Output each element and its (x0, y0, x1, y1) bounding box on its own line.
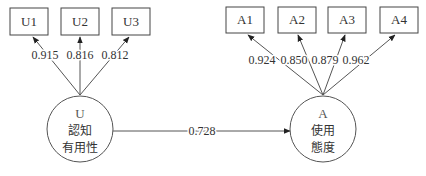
indicator-label: A3 (339, 12, 355, 27)
indicator-a1: A1 (226, 7, 264, 33)
latent-name-line1: 認知 (68, 123, 92, 138)
loading-a1: 0.924 (249, 53, 276, 67)
indicator-label: U3 (123, 14, 139, 29)
indicator-a3: A3 (328, 7, 366, 33)
indicator-label: U1 (21, 14, 37, 29)
loading-u3: 0.812 (102, 48, 129, 62)
loading-a2: 0.850 (281, 53, 308, 67)
latent-code: U (75, 106, 85, 121)
path-coefficient: 0.728 (189, 124, 216, 138)
indicator-label: U2 (72, 14, 88, 29)
u-loading-edges (33, 37, 129, 95)
indicator-u2: U2 (61, 8, 99, 35)
sem-diagram: 0.728 U1 U2 U3 A1 A2 A3 A4 0.915 0.816 0… (0, 0, 426, 176)
latent-construct-u: U 認知 有用性 (47, 96, 113, 162)
loading-u2: 0.816 (67, 48, 94, 62)
indicator-label: A4 (391, 12, 407, 27)
indicator-u1: U1 (10, 8, 48, 35)
latent-name-line2: 有用性 (62, 141, 98, 155)
indicator-a2: A2 (278, 7, 316, 33)
indicator-label: A2 (289, 12, 305, 27)
indicator-a4: A4 (380, 7, 418, 33)
indicator-u3: U3 (112, 8, 150, 35)
edge-u-u3 (80, 37, 129, 95)
loading-a4: 0.962 (343, 53, 370, 67)
latent-code: A (318, 106, 328, 121)
latent-name-line2: 態度 (311, 140, 335, 155)
loading-u1: 0.915 (32, 48, 59, 62)
loading-a3: 0.879 (312, 53, 339, 67)
edge-u-u1 (33, 37, 80, 95)
latent-construct-a: A 使用 態度 (290, 96, 356, 162)
latent-name-line1: 使用 (311, 123, 335, 138)
indicator-label: A1 (237, 12, 253, 27)
